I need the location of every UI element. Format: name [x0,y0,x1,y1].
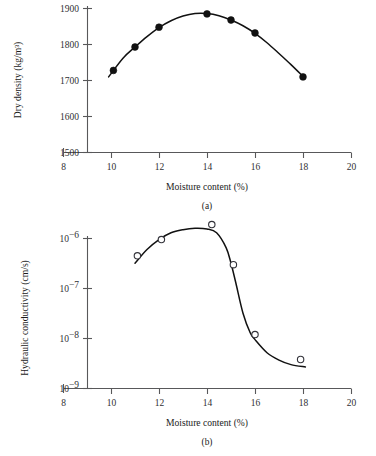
chart-b-axes [63,236,351,389]
chart-b-xtick-20: 20 [347,398,357,408]
data-point [209,221,215,227]
figure-container: Dry density (kg/m³) 1900 1800 1700 1600 … [0,0,376,456]
chart-a-svg: Dry density (kg/m³) 1900 1800 1700 1600 … [0,0,376,215]
chart-b-x-tick-labels: 8 10 12 14 16 18 20 [61,398,356,408]
chart-a-xtick-18: 18 [299,162,309,172]
chart-a-x-tick-labels: 8 10 12 14 16 18 20 [61,162,356,172]
chart-a-xtick-10: 10 [107,162,117,172]
chart-a-y-tick-labels: 1900 1800 1700 1600 1500 [60,4,79,158]
data-point [158,236,164,242]
chart-b-y-axis-title: Hydraulic conductivity (cm/s) [19,260,31,376]
data-point [228,17,235,24]
chart-b-caption: (b) [202,437,213,448]
chart-b-ytick-1e-8: 10−8 [59,330,79,344]
chart-a-ytick-1500: 1500 [60,148,79,158]
chart-a-caption: (a) [202,201,212,212]
chart-b-xtick-18: 18 [299,398,309,408]
chart-b-xtick-14: 14 [203,398,213,408]
chart-a-xtick-16: 16 [251,162,261,172]
chart-a-xtick-14: 14 [203,162,213,172]
chart-b-data-points [134,221,304,362]
chart-b-ytick-1e-6: 10−6 [59,230,79,244]
chart-b-y-tick-labels: 10−6 10−7 10−8 10−9 [59,230,79,394]
chart-b-xtick-12: 12 [155,398,165,408]
chart-b-x-axis-title: Moisture content (%) [166,417,248,429]
chart-b-svg: Hydraulic conductivity (cm/s) 10−6 10−7 … [0,215,376,456]
chart-b-xtick-16: 16 [251,398,261,408]
chart-panel-b: Hydraulic conductivity (cm/s) 10−6 10−7 … [0,215,376,456]
chart-a-xtick-20: 20 [347,162,357,172]
data-point [134,253,140,259]
chart-panel-a: Dry density (kg/m³) 1900 1800 1700 1600 … [0,0,376,215]
chart-a-axes [63,6,351,153]
data-point [297,356,303,362]
chart-b-ytick-1e-9: 10−9 [59,380,79,394]
chart-a-xtick-8: 8 [61,162,66,172]
data-point [252,331,258,337]
chart-a-data-points [110,11,306,81]
data-point [156,24,163,31]
chart-b-fit-curve [135,228,305,367]
chart-b-xtick-10: 10 [107,398,117,408]
data-point [110,67,117,74]
chart-a-ytick-1900: 1900 [60,4,79,14]
data-point [132,44,139,51]
data-point [204,11,211,18]
chart-a-xtick-12: 12 [155,162,165,172]
data-point [230,261,236,267]
chart-b-ytick-1e-7: 10−7 [59,280,79,294]
chart-a-ytick-1600: 1600 [60,112,79,122]
data-point [300,74,307,81]
chart-a-y-axis-title: Dry density (kg/m³) [12,42,24,118]
chart-a-x-axis-title: Moisture content (%) [166,181,248,193]
chart-a-ytick-1800: 1800 [60,40,79,50]
chart-b-xtick-8: 8 [61,398,66,408]
data-point [252,30,259,37]
chart-a-ytick-1700: 1700 [60,76,79,86]
